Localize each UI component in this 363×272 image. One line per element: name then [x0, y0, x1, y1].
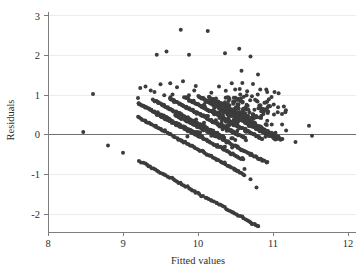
data-point	[220, 119, 224, 123]
data-point	[258, 126, 262, 130]
data-point	[249, 54, 253, 58]
x-axis-title: Fitted values	[171, 255, 225, 266]
data-point	[187, 93, 191, 97]
data-point	[175, 85, 179, 89]
data-point	[226, 139, 230, 143]
data-point	[240, 119, 244, 123]
data-point	[222, 103, 226, 107]
data-point	[265, 119, 269, 123]
data-point	[162, 93, 166, 97]
data-point	[265, 90, 269, 94]
data-point	[283, 110, 287, 114]
data-point	[255, 99, 259, 103]
figure-container: 89101112 -2-10123 Fitted values Residual…	[0, 0, 363, 272]
data-point	[181, 79, 185, 83]
data-point	[187, 53, 191, 57]
data-point	[185, 119, 189, 123]
data-point	[244, 130, 248, 134]
residuals-vs-fitted-plot: 89101112 -2-10123 Fitted values Residual…	[0, 0, 363, 272]
data-point	[207, 95, 211, 99]
x-axis-ticks	[48, 232, 348, 236]
x-tick-label: 12	[343, 238, 354, 249]
data-point	[222, 111, 226, 115]
data-point	[255, 186, 259, 190]
data-point	[249, 119, 253, 123]
data-point	[209, 119, 213, 123]
data-point	[240, 69, 244, 73]
scatter-points	[81, 28, 314, 228]
data-point	[223, 145, 227, 149]
data-point	[106, 144, 110, 148]
data-point	[250, 222, 254, 226]
data-point	[280, 122, 284, 126]
data-point	[265, 160, 269, 164]
data-point	[264, 122, 268, 126]
data-point	[224, 96, 228, 100]
data-point	[144, 85, 148, 89]
data-point	[256, 93, 260, 97]
data-point	[252, 124, 256, 128]
data-point	[310, 134, 314, 138]
data-point	[245, 93, 249, 97]
data-point	[249, 177, 253, 181]
data-point	[203, 105, 207, 109]
data-point	[277, 91, 281, 95]
data-point	[279, 138, 283, 142]
data-point	[246, 114, 250, 118]
y-tick-label: 1	[35, 90, 40, 101]
data-point	[155, 53, 159, 57]
data-point	[294, 140, 298, 144]
data-point	[248, 98, 252, 102]
data-point	[307, 124, 311, 128]
data-point	[238, 126, 242, 130]
data-point	[237, 47, 241, 51]
data-point	[236, 103, 240, 107]
data-point	[206, 114, 210, 118]
data-point	[272, 102, 276, 106]
data-point	[258, 88, 262, 92]
axis-lines	[48, 12, 356, 232]
data-point	[276, 110, 280, 114]
data-point	[282, 105, 286, 109]
data-point	[136, 96, 140, 100]
data-point	[228, 111, 232, 115]
data-point	[196, 130, 200, 134]
data-point	[242, 173, 246, 177]
data-point	[244, 138, 248, 142]
data-point	[209, 91, 213, 95]
y-tick-label: 3	[35, 11, 40, 22]
data-point	[214, 118, 218, 122]
data-point	[252, 108, 256, 112]
data-point	[224, 89, 228, 93]
data-point	[270, 123, 274, 127]
data-point	[149, 88, 153, 92]
data-point	[192, 88, 196, 92]
data-point	[121, 151, 125, 155]
data-point	[241, 157, 245, 161]
data-point	[81, 130, 85, 134]
data-point	[185, 135, 189, 139]
data-point	[231, 136, 235, 140]
x-tick-label: 10	[193, 238, 204, 249]
data-point	[263, 135, 267, 139]
data-point	[238, 87, 242, 91]
data-point	[206, 99, 210, 103]
data-point	[194, 118, 198, 122]
data-point	[202, 121, 206, 125]
data-point	[91, 92, 95, 96]
data-point	[243, 167, 247, 171]
data-point	[240, 81, 244, 85]
data-point	[206, 29, 210, 33]
data-point	[232, 119, 236, 123]
data-point	[268, 104, 272, 108]
data-point	[138, 86, 142, 90]
data-point	[168, 81, 172, 85]
data-point	[218, 104, 222, 108]
y-tick-label: -1	[31, 169, 40, 180]
data-point	[245, 89, 249, 93]
data-point	[235, 129, 239, 133]
data-point	[212, 112, 216, 116]
data-point	[230, 81, 234, 85]
data-point	[257, 104, 261, 108]
data-point	[256, 73, 260, 77]
